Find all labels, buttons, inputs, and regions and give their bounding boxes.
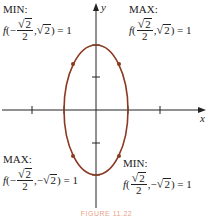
- x-axis-label: x: [199, 112, 205, 124]
- fraction-denominator: 2: [22, 31, 28, 42]
- point-marker: [71, 62, 75, 66]
- fraction: √2 2: [17, 168, 33, 192]
- paren-open: (: [132, 24, 136, 36]
- paren-close-equals: ) = 1: [171, 24, 192, 36]
- annotation-title-min-top-left: MIN:: [3, 3, 27, 15]
- annotation-title-max-top-right: MAX:: [129, 3, 158, 15]
- minus-sign: −: [10, 174, 16, 186]
- minus-sign: −: [10, 24, 16, 36]
- annotation-expression-top-left: f ( − √2 2 , √2 ) = 1: [3, 18, 72, 42]
- point-marker: [71, 154, 75, 158]
- annotation-title-max-bottom-left: MAX:: [3, 153, 32, 165]
- sqrt-term: √2: [157, 178, 171, 190]
- paren-close-equals: ) = 1: [51, 24, 72, 36]
- sqrt-term: √2: [157, 24, 171, 36]
- fraction-denominator: 2: [136, 185, 142, 196]
- fraction-denominator: 2: [22, 181, 28, 192]
- y-axis-arrow-icon: [93, 3, 99, 11]
- point-marker: [117, 154, 121, 158]
- annotation-expression-bottom-left: f ( − √2 2 , − √2 ) = 1: [3, 168, 78, 192]
- sqrt-term: √2: [43, 174, 57, 186]
- fraction: √2 2: [131, 172, 147, 196]
- fraction: √2 2: [17, 18, 33, 42]
- paren-open: (: [126, 178, 130, 190]
- sqrt-term: √2: [37, 24, 51, 36]
- paren-close-equals: ) = 1: [57, 174, 78, 186]
- fraction-denominator: 2: [142, 31, 148, 42]
- fraction: √2 2: [137, 18, 153, 42]
- point-marker: [117, 62, 121, 66]
- figure-caption: FIGURE 11.22: [0, 210, 213, 217]
- paren-close-equals: ) = 1: [171, 178, 192, 190]
- annotation-expression-bottom-right: f ( √2 2 , − √2 ) = 1: [123, 172, 192, 196]
- annotation-expression-top-right: f ( √2 2 , √2 ) = 1: [129, 18, 192, 42]
- annotation-title-min-bottom-right: MIN:: [123, 157, 147, 169]
- y-axis-label: y: [100, 1, 106, 13]
